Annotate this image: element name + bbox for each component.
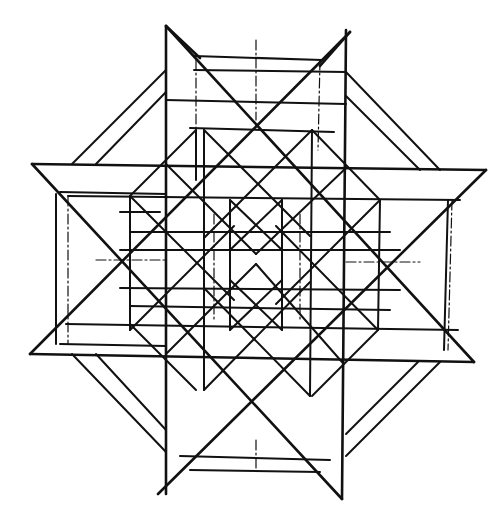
star-figure-drawing <box>0 0 493 529</box>
star-line <box>342 30 346 499</box>
star-line <box>158 170 486 494</box>
frame-line <box>180 456 330 460</box>
frame-line <box>96 92 166 164</box>
frame-line <box>346 362 440 456</box>
grid-diagonal <box>130 196 234 300</box>
frame-line <box>72 354 166 452</box>
frame-line <box>190 470 320 472</box>
frame-line <box>346 96 420 170</box>
primary-star-lines <box>30 26 486 499</box>
frame-line <box>346 72 440 170</box>
frame-line <box>66 324 458 330</box>
frame-line <box>60 192 166 194</box>
grid-diagonal <box>204 282 310 390</box>
frame-line <box>72 70 166 164</box>
star-line <box>166 26 200 58</box>
frame-line <box>68 196 460 200</box>
frame-line <box>96 354 166 430</box>
star-line <box>32 164 342 499</box>
frame-line <box>346 362 418 434</box>
grid-diagonal <box>256 264 342 362</box>
construction-lines <box>68 40 452 470</box>
grid-diagonal <box>166 164 256 254</box>
frame-line <box>120 288 400 290</box>
frame-line <box>194 56 322 60</box>
grid-diagonal <box>130 226 234 330</box>
frame-line <box>194 70 346 72</box>
geometric-star-diagram <box>0 0 493 529</box>
grid-diagonal <box>204 130 310 236</box>
grid-diagonal <box>130 130 196 196</box>
frame-line <box>444 200 448 350</box>
construction-line <box>448 200 452 350</box>
